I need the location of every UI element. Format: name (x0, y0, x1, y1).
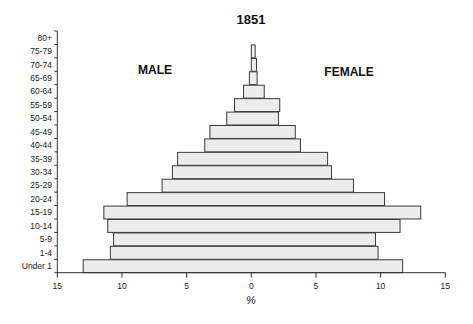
chart-title: 1851 (237, 12, 266, 27)
bar-65-69 (249, 72, 257, 85)
y-tick-label: 40-44 (30, 140, 52, 150)
y-tick-label: 70-74 (30, 60, 52, 70)
y-tick-label: 50-54 (30, 113, 52, 123)
y-tick-label: 25-29 (30, 180, 52, 190)
y-tick-label: 80+ (38, 33, 52, 43)
y-tick-label: 10-14 (30, 221, 52, 231)
y-tick-label: 75-79 (30, 46, 52, 56)
bar-45-49 (210, 125, 295, 138)
bar-60-64 (244, 85, 265, 98)
female-label: FEMALE (324, 65, 373, 79)
bar-under-1 (83, 260, 402, 273)
y-tick-label: 20-24 (30, 194, 52, 204)
bar-20-24 (127, 193, 384, 206)
x-axis: 15105051015 (53, 273, 451, 291)
x-tick-label: 10 (376, 281, 386, 291)
x-tick-label: 5 (314, 281, 319, 291)
bar-75-79 (251, 45, 255, 58)
bar-25-29 (162, 179, 353, 192)
male-label: MALE (138, 63, 172, 77)
x-axis-label: % (246, 294, 256, 306)
y-tick-label: 15-19 (30, 207, 52, 217)
y-axis: 80+75-7970-7465-6960-6455-5950-5445-4940… (22, 31, 58, 273)
bar-30-34 (172, 166, 331, 179)
y-tick-label: 5-9 (40, 234, 53, 244)
population-pyramid-chart: 1851 MALE FEMALE 80+75-7970-7465-6960-64… (0, 0, 473, 324)
y-tick-label: 1-4 (40, 248, 53, 258)
bar-10-14 (108, 219, 400, 232)
bar-5-9 (114, 233, 376, 246)
bar-55-59 (234, 99, 279, 112)
x-tick-label: 15 (53, 281, 63, 291)
x-tick-label: 5 (184, 281, 189, 291)
y-tick-label: 60-64 (30, 86, 52, 96)
x-tick-label: 0 (249, 281, 254, 291)
y-tick-label: 35-39 (30, 154, 52, 164)
y-tick-label: 55-59 (30, 100, 52, 110)
y-tick-label: 45-49 (30, 127, 52, 137)
y-tick-label: Under 1 (22, 261, 53, 271)
bar-1-4 (110, 246, 378, 259)
bars-group (83, 45, 421, 273)
x-tick-label: 10 (117, 281, 127, 291)
bar-70-74 (251, 58, 256, 71)
x-tick-label: 15 (441, 281, 451, 291)
y-tick-label: 30-34 (30, 167, 52, 177)
bar-35-39 (178, 152, 328, 165)
y-tick-label: 65-69 (30, 73, 52, 83)
bar-50-54 (227, 112, 279, 125)
bar-15-19 (104, 206, 421, 219)
bar-40-44 (205, 139, 301, 152)
